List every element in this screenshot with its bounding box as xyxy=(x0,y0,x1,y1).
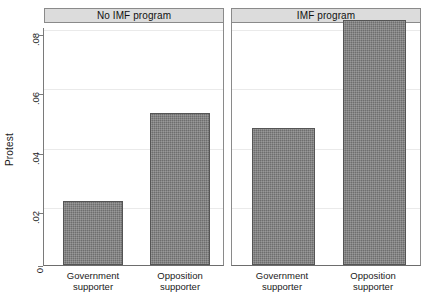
y-tickmark-02 xyxy=(38,213,43,214)
bar-no-imf-government-supporter xyxy=(63,201,123,265)
y-tickmark-06 xyxy=(38,94,43,95)
gridline-08 xyxy=(44,30,223,31)
bar-no-imf-opposition-supporter xyxy=(150,113,210,265)
plot-area-imf-program xyxy=(231,23,421,266)
y-tickmark-04 xyxy=(38,154,43,155)
x-label-government-supporter-no-imf: Government supporter xyxy=(53,270,133,292)
x-label-opposition-supporter-imf: Opposition supporter xyxy=(333,270,413,292)
x-axis-labels-imf: Government supporter Opposition supporte… xyxy=(231,270,421,296)
bar-imf-government-supporter xyxy=(252,128,315,265)
x-label-government-supporter-imf: Government supporter xyxy=(242,270,322,292)
panel-no-imf-program: No IMF program xyxy=(44,8,224,266)
bar-imf-opposition-supporter xyxy=(343,20,406,265)
panel-title-no-imf-program: No IMF program xyxy=(44,8,224,23)
chart-figure: Protest .08 .06 .04 .02 0 No IMF program xyxy=(0,0,428,299)
plot-area-no-imf-program xyxy=(44,23,224,266)
gridline-06 xyxy=(44,89,223,90)
x-label-opposition-supporter-no-imf: Opposition supporter xyxy=(140,270,220,292)
panel-imf-program: IMF program xyxy=(231,8,421,266)
y-tickmark-0 xyxy=(38,266,43,267)
y-axis-title-text: Protest xyxy=(5,133,16,166)
y-tickmark-08 xyxy=(38,35,43,36)
x-axis-labels-no-imf: Government supporter Opposition supporte… xyxy=(44,270,224,296)
y-axis-title: Protest xyxy=(2,0,18,299)
y-axis-ticks: .08 .06 .04 .02 0 xyxy=(18,0,42,299)
